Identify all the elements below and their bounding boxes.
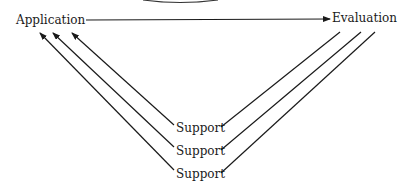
node-support-2: Support xyxy=(176,144,225,158)
arrow-application-to-evaluation xyxy=(86,19,330,20)
node-support-3: Support xyxy=(176,167,225,181)
top-arc xyxy=(143,0,218,3)
arrow-support2-to-application xyxy=(53,33,174,147)
arrow-support1-to-application xyxy=(72,33,174,125)
node-application: Application xyxy=(16,13,85,27)
diagram-canvas xyxy=(0,0,404,190)
line-support2-to-evaluation xyxy=(221,32,361,150)
line-support3-to-evaluation xyxy=(221,32,375,173)
node-evaluation: Evaluation xyxy=(332,11,397,25)
arrow-support3-to-application xyxy=(40,33,174,170)
node-support-1: Support xyxy=(176,121,225,135)
line-support1-to-evaluation xyxy=(221,32,340,127)
